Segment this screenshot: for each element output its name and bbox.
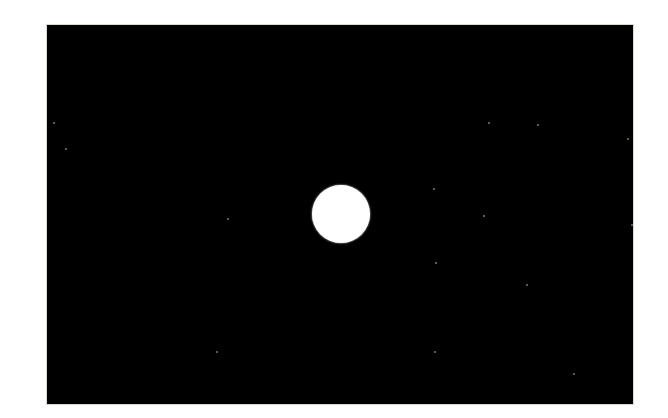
star-dot xyxy=(65,148,67,150)
image-frame xyxy=(46,24,634,405)
star-dot xyxy=(227,218,229,220)
star-dot xyxy=(573,373,575,375)
star-dot xyxy=(537,124,539,126)
star-dot xyxy=(631,224,633,226)
star-dot xyxy=(435,262,437,264)
star-dot xyxy=(53,122,55,124)
star-dot xyxy=(216,351,218,353)
star-dot xyxy=(433,188,435,190)
star-dot xyxy=(488,122,490,124)
star-dot xyxy=(526,284,528,286)
star-dot xyxy=(434,351,436,353)
star-dot xyxy=(627,138,629,140)
star-dot xyxy=(483,215,485,217)
white-circle xyxy=(312,185,370,243)
